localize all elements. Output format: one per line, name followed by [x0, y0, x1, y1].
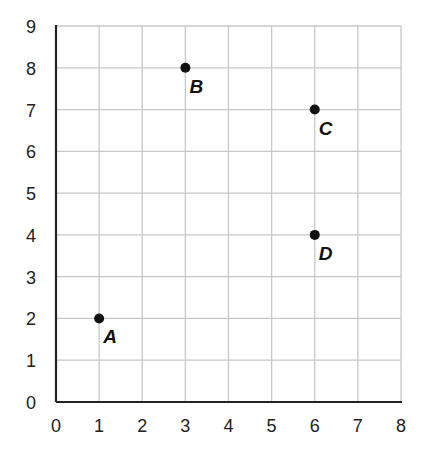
x-tick-label: 4: [223, 416, 233, 436]
x-tick-label: 5: [267, 416, 277, 436]
y-tick-label: 9: [26, 17, 36, 37]
data-point-marker: [94, 313, 104, 323]
y-tick-labels: 0123456789: [26, 17, 36, 413]
data-point-label: A: [102, 326, 117, 347]
y-tick-label: 8: [26, 59, 36, 79]
y-tick-label: 1: [26, 351, 36, 371]
data-point-marker: [310, 230, 320, 240]
x-tick-labels: 012345678: [51, 416, 406, 436]
x-tick-label: 0: [51, 416, 61, 436]
data-point-label: D: [319, 243, 333, 264]
y-tick-label: 5: [26, 184, 36, 204]
data-point-marker: [180, 63, 190, 73]
data-point-label: B: [189, 76, 203, 97]
data-points: ABCD: [94, 63, 333, 348]
data-point-marker: [310, 105, 320, 115]
y-tick-label: 2: [26, 309, 36, 329]
x-tick-label: 3: [180, 416, 190, 436]
data-point-label: C: [319, 118, 333, 139]
y-tick-label: 4: [26, 226, 36, 246]
scatter-chart: 012345678 0123456789 ABCD: [0, 0, 434, 459]
y-tick-label: 6: [26, 142, 36, 162]
y-tick-label: 0: [26, 393, 36, 413]
x-tick-label: 7: [353, 416, 363, 436]
y-tick-label: 7: [26, 101, 36, 121]
x-tick-label: 8: [396, 416, 406, 436]
x-tick-label: 1: [94, 416, 104, 436]
x-tick-label: 2: [137, 416, 147, 436]
x-tick-label: 6: [310, 416, 320, 436]
y-tick-label: 3: [26, 268, 36, 288]
